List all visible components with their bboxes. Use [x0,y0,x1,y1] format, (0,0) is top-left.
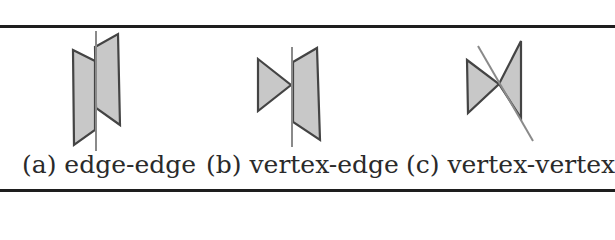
panel-a-edge-edge [73,31,120,151]
bottom-rule [0,189,615,192]
caption-a: (a) edge-edge [22,150,196,180]
caption-b: (b) vertex-edge [206,150,399,180]
quad-shape [293,48,320,140]
right-quad-shape [95,34,120,125]
panel-c-vertex-vertex [467,41,533,141]
left-quad-shape [73,50,95,145]
caption-c: (c) vertex-vertex [406,150,615,180]
left-triangle-shape [467,60,499,113]
panel-b-vertex-edge [258,47,320,147]
right-triangle-shape [499,41,521,118]
triangle-shape [258,59,291,111]
